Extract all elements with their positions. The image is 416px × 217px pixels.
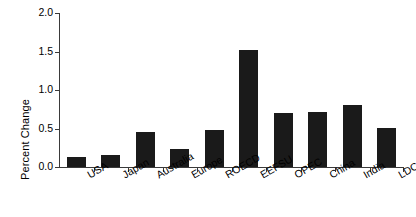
x-label-eefsu: EEFSU bbox=[258, 170, 264, 180]
x-label-usa: USA bbox=[85, 170, 91, 180]
y-tick-mark bbox=[55, 13, 59, 14]
y-tick-mark bbox=[55, 90, 59, 91]
x-label-australia: Australia bbox=[154, 170, 160, 180]
y-axis-line bbox=[59, 13, 60, 168]
x-label-roecd: ROECD bbox=[223, 170, 229, 180]
x-label-europe: Europe bbox=[189, 170, 195, 180]
bar-chart-figure: Percent Change 0.00.51.01.52.0 USAJapanA… bbox=[0, 0, 416, 217]
x-label-ldc: LDC bbox=[396, 170, 402, 180]
x-label-china: China bbox=[327, 170, 333, 180]
x-label-opec: OPEC bbox=[292, 170, 298, 180]
y-axis-title: Percent Change bbox=[18, 70, 34, 180]
y-tick-label: 0.5 bbox=[38, 122, 53, 135]
bar-eefsu bbox=[239, 50, 258, 167]
x-label-japan: Japan bbox=[120, 170, 126, 180]
y-tick-label: 0.0 bbox=[38, 160, 53, 173]
x-label-india: India bbox=[361, 170, 367, 180]
x-axis-labels: USAJapanAustraliaEuropeROECDEEFSUOPECChi… bbox=[59, 170, 404, 217]
plot-area: 0.00.51.01.52.0 bbox=[59, 13, 404, 167]
y-tick-mark bbox=[55, 129, 59, 130]
y-tick-mark bbox=[55, 167, 59, 168]
bar-usa bbox=[67, 157, 86, 167]
y-tick-label: 1.5 bbox=[38, 45, 53, 58]
y-tick-mark bbox=[55, 52, 59, 53]
y-tick-label: 1.0 bbox=[38, 83, 53, 96]
y-tick-label: 2.0 bbox=[38, 6, 53, 19]
